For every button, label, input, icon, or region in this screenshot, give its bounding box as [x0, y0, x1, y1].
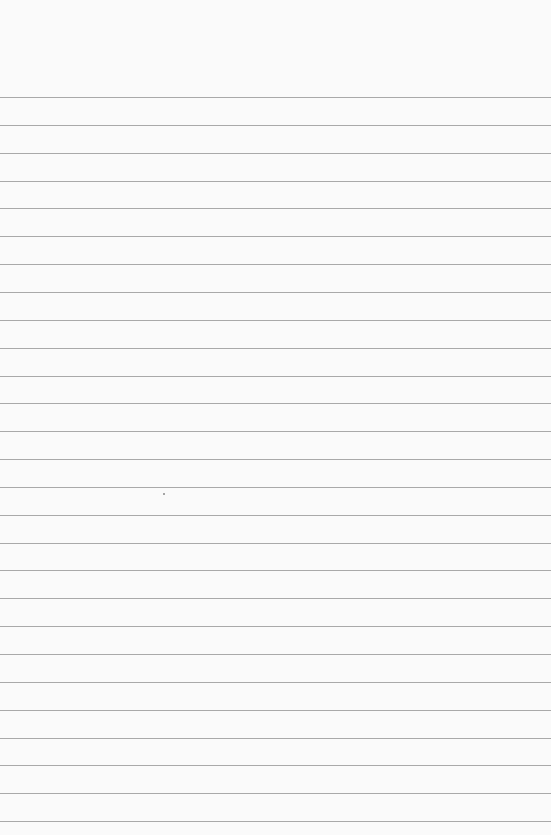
ruled-line — [0, 181, 551, 182]
ruled-line — [0, 264, 551, 265]
ruled-line — [0, 738, 551, 739]
ruled-line — [0, 710, 551, 711]
ruled-line — [0, 682, 551, 683]
ruled-line — [0, 153, 551, 154]
ruled-line — [0, 292, 551, 293]
ruled-line — [0, 654, 551, 655]
ruled-line — [0, 348, 551, 349]
paper-speck — [163, 493, 165, 495]
ruled-line — [0, 208, 551, 209]
ruled-line — [0, 765, 551, 766]
ruled-line — [0, 543, 551, 544]
ruled-line — [0, 487, 551, 488]
ruled-line — [0, 125, 551, 126]
ruled-line — [0, 236, 551, 237]
lined-paper — [0, 0, 551, 835]
ruled-line — [0, 598, 551, 599]
ruled-line — [0, 320, 551, 321]
ruled-line — [0, 515, 551, 516]
ruled-line — [0, 626, 551, 627]
ruled-line — [0, 431, 551, 432]
ruled-line — [0, 459, 551, 460]
ruled-line — [0, 376, 551, 377]
ruled-line — [0, 821, 551, 822]
ruled-line — [0, 97, 551, 98]
ruled-line — [0, 793, 551, 794]
ruled-line — [0, 570, 551, 571]
ruled-line — [0, 403, 551, 404]
